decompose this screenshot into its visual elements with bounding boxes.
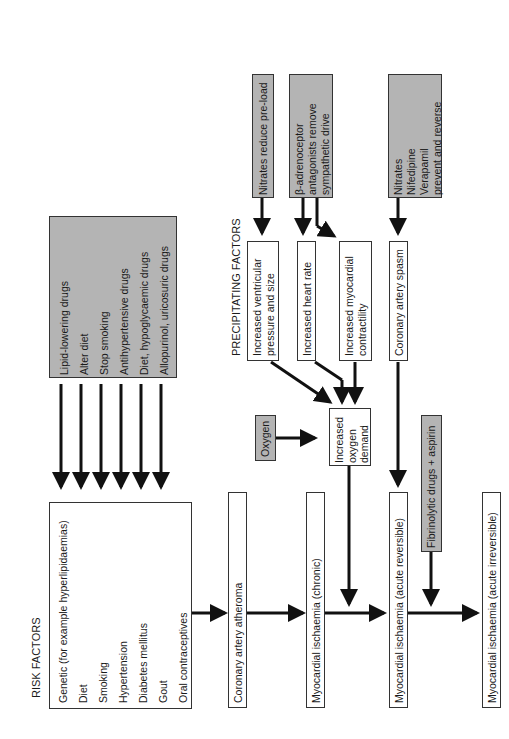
treatment-diet: Alter diet xyxy=(78,334,91,375)
treatment-hypertension: Antihypertensive drugs xyxy=(118,268,131,375)
ventricular-box: Increased ventricular pressure and size xyxy=(247,241,279,361)
spasm-drugs-box: Nitrates Nifedipine Verapamil prevent an… xyxy=(388,74,442,198)
risk-oral-contraceptives: Oral contraceptives xyxy=(177,613,190,703)
demand-line1: Increased xyxy=(333,417,346,463)
coronary-atheroma-label: Coronary artery atheroma xyxy=(232,583,245,703)
ischaemia-chronic-box: Myocardial ischaemia (chronic) xyxy=(306,492,325,708)
fibrinolytic-box: Fibrinolytic drugs + aspirin xyxy=(421,415,442,552)
risk-smoking: Smoking xyxy=(97,662,110,703)
fibrinolytic-label: Fibrinolytic drugs + aspirin xyxy=(425,426,438,548)
contractility-line1: Increased myocardial xyxy=(343,256,356,356)
ventricular-line2: pressure and size xyxy=(264,273,277,356)
beta-line2: antagonists remove xyxy=(306,103,319,195)
oxygen-demand-box: Increased oxygen demand xyxy=(329,408,371,466)
beta-line3: sympathetic drive xyxy=(319,113,332,195)
spasm-drug-line4: prevent and reverse xyxy=(431,102,444,195)
ischaemia-acute-irreversible-box: Myocardial ischaemia (acute irreversible… xyxy=(482,492,501,708)
spasm-box: Coronary artery spasm xyxy=(389,241,408,361)
treatment-diabetes: Diet, hypoglycaemic drugs xyxy=(138,252,151,375)
ischaemia-acute-reversible-label: Myocardial ischaemia (acute reversible) xyxy=(393,518,406,703)
ventricular-line1: Increased ventricular xyxy=(251,259,264,356)
risk-diabetes: Diabetes mellitus xyxy=(137,623,150,703)
ischaemia-acute-irreversible-label: Myocardial ischaemia (acute irreversible… xyxy=(486,512,499,703)
beta-line1: β-adrenoceptor xyxy=(293,124,306,195)
precipitating-title: PRECIPITATING FACTORS xyxy=(230,218,242,356)
risk-factors-title: RISK FACTORS xyxy=(30,618,42,698)
risk-diet: Diet xyxy=(77,684,90,703)
risk-hypertension: Hypertension xyxy=(117,641,130,703)
risk-gout: Gout xyxy=(157,680,170,703)
oxygen-box: Oxygen xyxy=(255,415,276,461)
beta-blocker-box: β-adrenoceptor antagonists remove sympat… xyxy=(289,74,333,198)
spasm-drug-line2: Nifedipine xyxy=(405,148,418,195)
heart-rate-box: Increased heart rate xyxy=(297,241,316,361)
nitrates-preload-box: Nitrates reduce pre-load xyxy=(252,74,274,198)
spasm-drug-line1: Nitrates xyxy=(392,159,405,195)
demand-line3: demand xyxy=(358,425,371,463)
treatment-lipid: Lipid-lowering drugs xyxy=(58,281,71,375)
nitrates-preload-label: Nitrates reduce pre-load xyxy=(257,82,270,195)
treatment-smoking: Stop smoking xyxy=(98,311,111,375)
heart-rate-label: Increased heart rate xyxy=(301,262,314,356)
oxygen-label: Oxygen xyxy=(259,421,272,457)
risk-treatments-box: Lipid-lowering drugs Alter diet Stop smo… xyxy=(49,216,177,378)
treatment-gout: Allopurinol, uricosuric drugs xyxy=(158,246,171,375)
spasm-label: Coronary artery spasm xyxy=(393,249,406,356)
contractility-box: Increased myocardial contractility xyxy=(339,241,372,361)
contractility-line2: contractility xyxy=(356,303,369,356)
ischaemia-chronic-label: Myocardial ischaemia (chronic) xyxy=(310,558,323,703)
spasm-drug-line3: Verapamil xyxy=(418,148,431,195)
risk-factors-box: Genetic (for example hyperlipidaemias) D… xyxy=(49,502,192,709)
ischaemia-acute-reversible-box: Myocardial ischaemia (acute reversible) xyxy=(389,492,408,708)
coronary-atheroma-box: Coronary artery atheroma xyxy=(228,492,247,708)
risk-genetic: Genetic (for example hyperlipidaemias) xyxy=(57,520,70,703)
